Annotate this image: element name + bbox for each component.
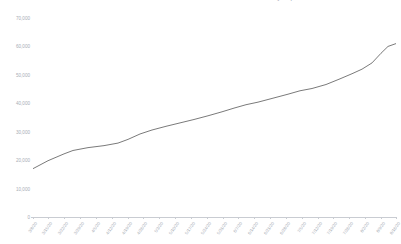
x-axis-tick-label: 4/19/20 xyxy=(121,221,133,236)
x-axis-tick-mark xyxy=(302,217,303,219)
x-axis-tick-label: 6/14/20 xyxy=(247,221,259,236)
series-line-total-cases xyxy=(33,44,396,169)
x-axis-tick-label: 8/9/20 xyxy=(375,221,386,234)
x-axis-tick-mark xyxy=(396,217,397,219)
x-axis-tick-label: 3/29/20 xyxy=(73,221,85,236)
x-axis-tick-label: 5/3/20 xyxy=(153,221,164,234)
x-axis-tick-label: 7/19/20 xyxy=(326,221,338,236)
x-axis-tick-mark xyxy=(159,217,160,219)
x-axis-tick-label: 7/5/20 xyxy=(296,221,307,234)
x-axis-tick-mark xyxy=(286,217,287,219)
x-axis-tick-mark xyxy=(349,217,350,219)
x-axis-tick-label: 3/8/20 xyxy=(27,221,38,234)
x-axis-tick-mark xyxy=(175,217,176,219)
x-axis-tick-label: 4/5/20 xyxy=(90,221,101,234)
x-axis-tick-mark xyxy=(48,217,49,219)
x-axis-tick-mark xyxy=(64,217,65,219)
x-axis-tick-mark xyxy=(96,217,97,219)
x-axis-tick-label: 5/10/20 xyxy=(168,221,180,236)
x-axis-tick-label: 4/12/20 xyxy=(105,221,117,236)
x-axis-tick-mark xyxy=(365,217,366,219)
x-axis-tick-mark xyxy=(112,217,113,219)
x-axis-tick-label: 7/26/20 xyxy=(342,221,354,236)
x-axis-tick-mark xyxy=(191,217,192,219)
x-axis-tick-label: 6/21/20 xyxy=(263,221,275,236)
x-axis-tick-label: 5/17/20 xyxy=(184,221,196,236)
x-axis-tick-label: 5/31/20 xyxy=(216,221,228,236)
x-axis-tick-mark xyxy=(318,217,319,219)
x-axis-tick-mark xyxy=(80,217,81,219)
x-axis-tick-mark xyxy=(381,217,382,219)
x-axis-tick-mark xyxy=(238,217,239,219)
x-axis-tick-mark xyxy=(270,217,271,219)
x-axis-tick-label: 8/2/20 xyxy=(359,221,370,234)
x-axis-tick-mark xyxy=(223,217,224,219)
x-axis-tick-label: 3/22/20 xyxy=(57,221,69,236)
x-axis-tick-label: 6/7/20 xyxy=(232,221,243,234)
x-axis-tick-mark xyxy=(207,217,208,219)
x-axis-tick-label: 3/15/20 xyxy=(41,221,53,236)
x-axis-tick-mark xyxy=(254,217,255,219)
x-axis-tick-mark xyxy=(333,217,334,219)
x-axis-tick-label: 8/16/20 xyxy=(389,221,401,236)
x-axis-tick-mark xyxy=(33,217,34,219)
x-axis-tick-label: 7/12/20 xyxy=(311,221,323,236)
x-axis: 3/8/203/15/203/22/203/29/204/5/204/12/20… xyxy=(0,217,400,244)
x-axis-tick-label: 4/26/20 xyxy=(136,221,148,236)
x-axis-tick-mark xyxy=(143,217,144,219)
x-axis-tick-label: 5/24/20 xyxy=(200,221,212,236)
x-axis-tick-label: 6/28/20 xyxy=(279,221,291,236)
x-axis-tick-mark xyxy=(128,217,129,219)
